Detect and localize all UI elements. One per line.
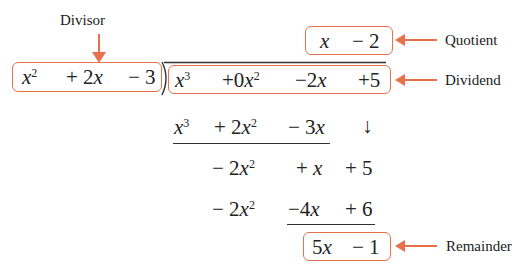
term-variable: x xyxy=(310,197,319,221)
term-variable: x xyxy=(316,115,325,139)
remainder-term-2: − 1 xyxy=(352,237,380,258)
term-variable: x xyxy=(22,65,31,89)
divisor-label: Divisor xyxy=(60,12,105,29)
term-exponent: 3 xyxy=(184,69,190,83)
step1-underline xyxy=(173,143,330,144)
term-coefficient: −4 xyxy=(288,197,310,221)
term-exponent: 3 xyxy=(183,116,189,130)
term-variable: x xyxy=(242,115,251,139)
term-coefficient: − 1 xyxy=(352,235,380,259)
step3-term-3: + 6 xyxy=(345,199,373,220)
term-variable: x xyxy=(244,68,253,92)
term-variable: x xyxy=(313,156,322,180)
divisor-term-2: + 2x xyxy=(66,67,103,88)
dividend-term-4: +5 xyxy=(358,70,380,91)
dividend-label: Dividend xyxy=(445,72,501,89)
term-coefficient: − 2 xyxy=(212,197,240,221)
term-variable: x xyxy=(320,29,329,53)
quotient-term-2: − 2 xyxy=(352,31,380,52)
dividend-arrow-icon xyxy=(395,74,437,86)
term-coefficient: + 6 xyxy=(345,197,373,221)
term-exponent: 2 xyxy=(251,116,257,130)
term-coefficient: + xyxy=(296,156,313,180)
arrow-glyph: ↓ xyxy=(362,114,373,138)
remainder-label: Remainder xyxy=(446,238,512,255)
bring-down-arrow-icon: ↓ xyxy=(362,116,373,137)
step1-term-3: − 3x xyxy=(288,117,325,138)
term-coefficient: +0 xyxy=(222,68,244,92)
quotient-term-1: x xyxy=(320,31,329,52)
term-coefficient: + 2 xyxy=(66,65,94,89)
divisor-term-3: − 3 xyxy=(128,67,156,88)
term-coefficient: − 3 xyxy=(288,115,316,139)
divisor-term-1: x2 xyxy=(22,67,37,88)
step1-term-1: x3 xyxy=(174,117,189,138)
term-variable: x xyxy=(174,115,183,139)
term-coefficient: − 2 xyxy=(352,29,380,53)
term-exponent: 2 xyxy=(254,69,260,83)
term-variable: x xyxy=(240,197,249,221)
divisor-arrow-icon xyxy=(92,34,106,64)
step3-term-2: −4x xyxy=(288,199,320,220)
term-exponent: 2 xyxy=(31,66,37,80)
step2-term-1: − 2x2 xyxy=(212,158,255,179)
term-coefficient: − 3 xyxy=(128,65,156,89)
dividend-term-2: +0x2 xyxy=(222,70,260,91)
dividend-term-1: x3 xyxy=(175,70,190,91)
term-coefficient: −2 xyxy=(295,68,317,92)
step1-term-2: + 2x2 xyxy=(214,117,257,138)
remainder-term-1: 5x xyxy=(312,237,332,258)
term-exponent: 2 xyxy=(249,157,255,171)
term-coefficient: + 2 xyxy=(214,115,242,139)
quotient-arrow-icon xyxy=(395,34,437,46)
term-coefficient: − 2 xyxy=(212,156,240,180)
step3-underline xyxy=(287,224,375,225)
term-variable: x xyxy=(94,65,103,89)
term-exponent: 2 xyxy=(249,198,255,212)
step2-term-3: + 5 xyxy=(345,158,373,179)
quotient-box xyxy=(305,26,393,55)
term-coefficient: + 5 xyxy=(345,156,373,180)
term-coefficient: 5 xyxy=(312,235,323,259)
remainder-arrow-icon xyxy=(395,240,437,252)
term-variable: x xyxy=(240,156,249,180)
term-variable: x xyxy=(317,68,326,92)
term-variable: x xyxy=(323,235,332,259)
step2-term-2: + x xyxy=(296,158,322,179)
term-variable: x xyxy=(175,68,184,92)
term-coefficient: +5 xyxy=(358,68,380,92)
step3-term-1: − 2x2 xyxy=(212,199,255,220)
quotient-label: Quotient xyxy=(445,32,498,49)
dividend-term-3: −2x xyxy=(295,70,327,91)
